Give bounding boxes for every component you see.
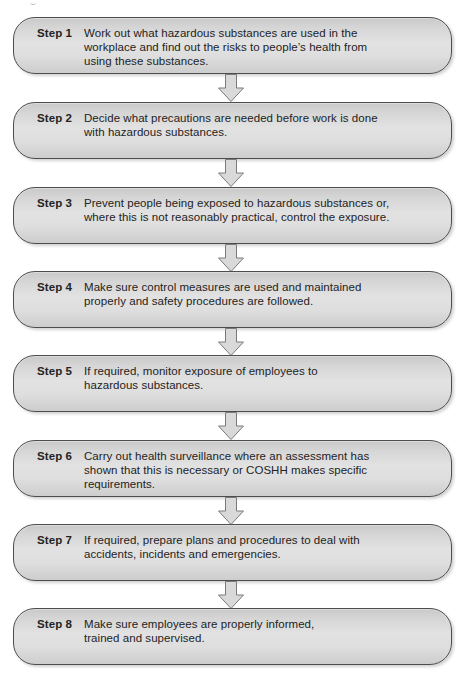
step-7-line-1: If required, prepare plans and procedure… — [84, 533, 414, 547]
step-7-label: Step 7 — [37, 533, 72, 547]
down-arrow-icon — [217, 412, 245, 440]
step-1-label: Step 1 — [37, 26, 72, 40]
step-2-label: Step 2 — [37, 111, 72, 125]
step-8-box: Step 8 Make sure employees are properly … — [13, 608, 452, 665]
step-7-box: Step 7 If required, prepare plans and pr… — [13, 524, 452, 581]
step-1-box: Step 1 Work out what hazardous substance… — [13, 17, 452, 74]
step-8-line-1: Make sure employees are properly informe… — [84, 617, 414, 631]
step-4-label: Step 4 — [37, 280, 72, 294]
step-1-line-3: using these substances. — [84, 54, 414, 68]
down-arrow-icon — [217, 74, 245, 102]
down-arrow-icon — [217, 244, 245, 272]
down-arrow-icon — [217, 159, 245, 187]
step-1-text: Work out what hazardous substances are u… — [84, 26, 414, 68]
step-6-line-2: shown that this is necessary or COSHH ma… — [84, 463, 414, 477]
step-7-line-2: accidents, incidents and emergencies. — [84, 547, 414, 561]
step-2-line-2: with hazardous substances. — [84, 125, 414, 139]
down-arrow-icon — [217, 497, 245, 525]
step-6-label: Step 6 — [37, 449, 72, 463]
step-1-line-1: Work out what hazardous substances are u… — [84, 26, 414, 40]
step-3-label: Step 3 — [37, 196, 72, 210]
step-6-line-1: Carry out health surveillance where an a… — [84, 449, 414, 463]
step-7-text: If required, prepare plans and procedure… — [84, 533, 414, 561]
step-4-text: Make sure control measures are used and … — [84, 280, 414, 308]
coshh-steps-flowchart: Step 1 Work out what hazardous substance… — [0, 0, 468, 677]
step-8-text: Make sure employees are properly informe… — [84, 617, 414, 645]
step-3-line-1: Prevent people being exposed to hazardou… — [84, 196, 414, 210]
step-4-line-2: properly and safety procedures are follo… — [84, 294, 414, 308]
step-2-text: Decide what precautions are needed befor… — [84, 111, 414, 139]
down-arrow-icon — [217, 328, 245, 356]
step-4-box: Step 4 Make sure control measures are us… — [13, 271, 452, 328]
step-3-text: Prevent people being exposed to hazardou… — [84, 196, 414, 224]
step-4-line-1: Make sure control measures are used and … — [84, 280, 414, 294]
step-2-line-1: Decide what precautions are needed befor… — [84, 111, 414, 125]
step-5-label: Step 5 — [37, 364, 72, 378]
step-5-text: If required, monitor exposure of employe… — [84, 364, 414, 392]
step-5-line-2: hazardous substances. — [84, 378, 414, 392]
step-3-line-2: where this is not reasonably practical, … — [84, 210, 414, 224]
step-5-line-1: If required, monitor exposure of employe… — [84, 364, 414, 378]
step-5-box: Step 5 If required, monitor exposure of … — [13, 355, 452, 412]
step-3-box: Step 3 Prevent people being exposed to h… — [13, 187, 452, 244]
step-2-box: Step 2 Decide what precautions are neede… — [13, 102, 452, 159]
step-6-box: Step 6 Carry out health surveillance whe… — [13, 440, 452, 497]
step-6-text: Carry out health surveillance where an a… — [84, 449, 414, 491]
down-arrow-icon — [217, 581, 245, 609]
step-8-line-2: trained and supervised. — [84, 631, 414, 645]
step-8-label: Step 8 — [37, 617, 72, 631]
step-1-line-2: workplace and find out the risks to peop… — [84, 40, 414, 54]
cropped-mark — [30, 0, 36, 5]
step-6-line-3: requirements. — [84, 477, 414, 491]
